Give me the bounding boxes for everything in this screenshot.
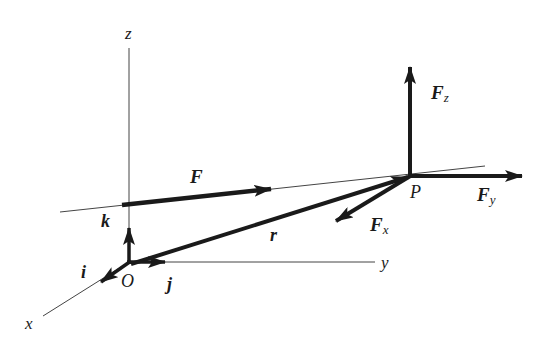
unit-j-label: j bbox=[164, 274, 173, 294]
y-axis-label: y bbox=[379, 253, 389, 272]
unit-k-label: k bbox=[101, 211, 110, 231]
unit-i-label: i bbox=[81, 262, 86, 282]
Fx-label: Fx bbox=[369, 214, 389, 237]
origin-label: O bbox=[121, 271, 134, 291]
Fy-subscript: y bbox=[488, 192, 496, 207]
x-axis-label: x bbox=[24, 314, 33, 333]
Fx-base: F bbox=[369, 214, 383, 235]
Fy-base: F bbox=[476, 184, 490, 205]
Fz-label: Fz bbox=[430, 82, 449, 105]
Fx-subscript: x bbox=[382, 222, 389, 237]
point-P-label: P bbox=[409, 182, 421, 202]
Fz-base: F bbox=[430, 82, 444, 103]
coordinate-axes bbox=[43, 48, 375, 316]
force-moment-diagram: z y x O P F r k j i Fz Fy Fx bbox=[0, 0, 542, 337]
position-r-label: r bbox=[270, 225, 278, 245]
force-F-label: F bbox=[189, 166, 203, 187]
force-vector-F bbox=[122, 189, 271, 205]
Fy-label: Fy bbox=[476, 184, 496, 207]
Fz-subscript: z bbox=[443, 90, 449, 105]
z-axis-label: z bbox=[124, 24, 132, 43]
